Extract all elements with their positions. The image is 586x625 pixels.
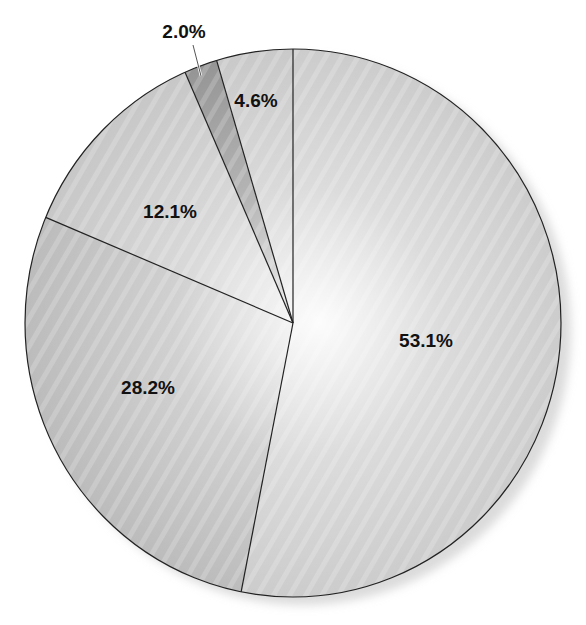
pie-chart-canvas: 53.1%28.2%12.1%2.0%4.6%: [0, 0, 586, 625]
slice-label: 28.2%: [121, 377, 175, 398]
slice-label: 2.0%: [162, 21, 205, 42]
pie-chart: 53.1%28.2%12.1%2.0%4.6%: [0, 0, 586, 625]
slice-label: 4.6%: [234, 90, 277, 111]
slice-label: 53.1%: [399, 330, 453, 351]
slice-label: 12.1%: [143, 201, 197, 222]
